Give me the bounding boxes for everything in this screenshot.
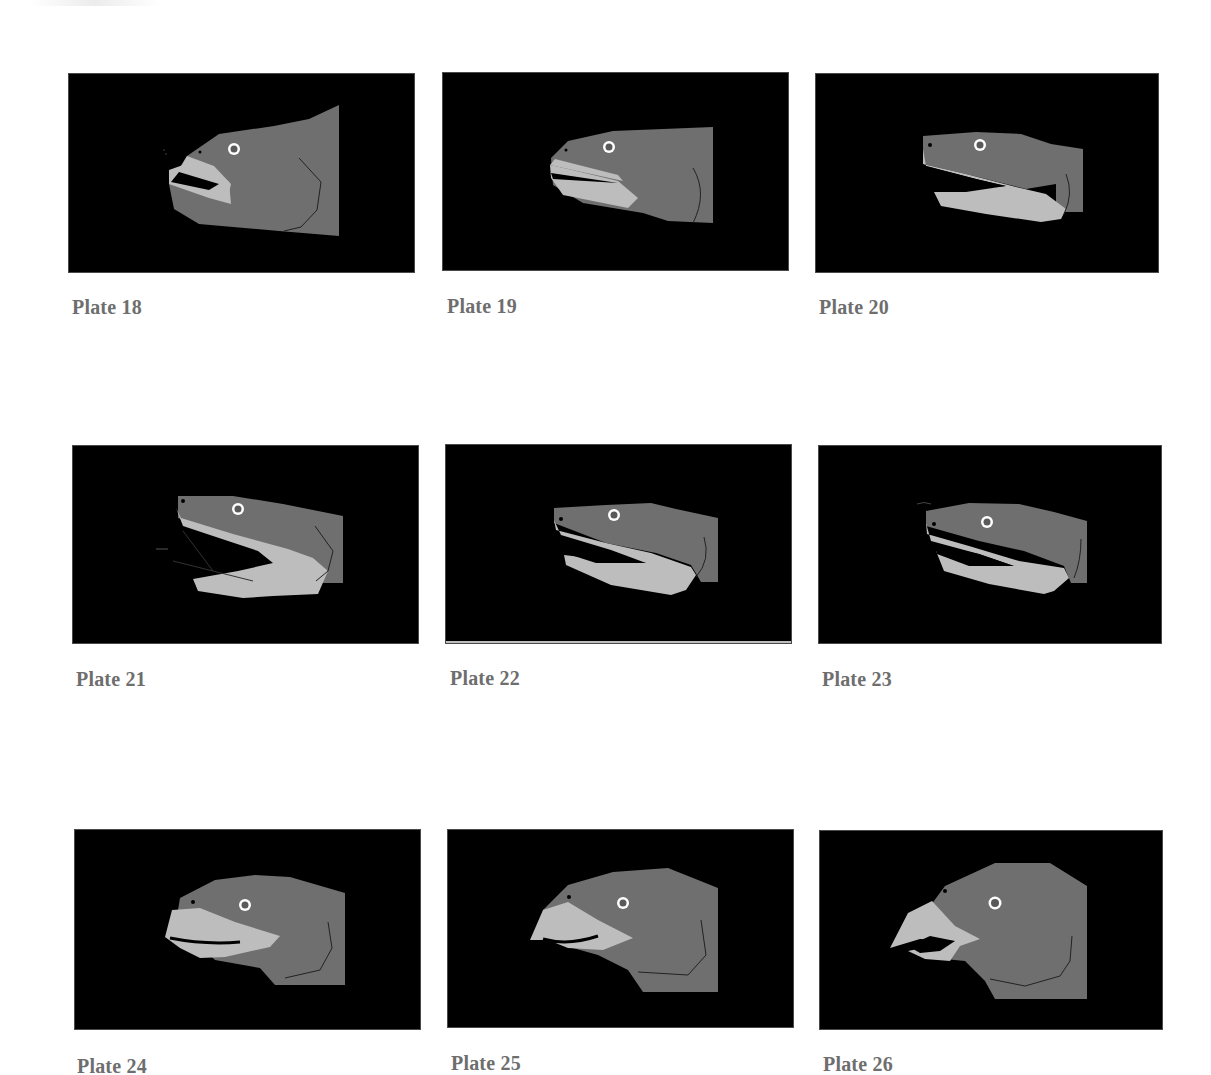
plate-image [73, 446, 418, 643]
eel-head-illustration [446, 445, 791, 641]
plate-caption: Plate 19 [447, 295, 517, 318]
plate-caption: Plate 25 [451, 1052, 521, 1075]
fish-head-illustration [443, 73, 788, 270]
plate-image [820, 831, 1162, 1029]
plate-image [819, 446, 1161, 643]
plate-image [448, 830, 793, 1027]
plate-caption: Plate 22 [450, 667, 520, 690]
plate-image [69, 74, 414, 272]
plate-image [816, 74, 1158, 272]
plate-caption: Plate 21 [76, 668, 146, 691]
plate-image [446, 445, 791, 643]
bird-head-illustration [448, 830, 793, 1027]
eel-head-illustration [73, 446, 418, 643]
plate-caption: Plate 20 [819, 296, 889, 319]
plate-caption: Plate 23 [822, 668, 892, 691]
plate-image [75, 830, 420, 1029]
plate-caption: Plate 26 [823, 1053, 893, 1075]
scan-smudge [30, 0, 160, 6]
plate-caption: Plate 18 [72, 296, 142, 319]
eel-head-illustration [819, 446, 1161, 643]
bird-head-hooked-beak-illustration [820, 831, 1162, 1029]
fish-head-illustration [69, 74, 414, 272]
eel-head-illustration [816, 74, 1158, 272]
plate-image [443, 73, 788, 270]
head-with-beak-illustration [75, 830, 420, 1029]
plate-caption: Plate 24 [77, 1055, 147, 1075]
